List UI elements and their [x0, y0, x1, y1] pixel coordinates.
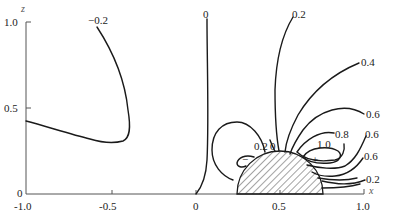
z-tick-0: 0 — [17, 187, 23, 199]
label-0.4: 0.4 — [361, 56, 375, 68]
label-0.6-lower: 0.6 — [364, 150, 378, 162]
plus-sign: + — [312, 153, 318, 165]
contour-chart: 1.0 0.5 0 z -1.0 -0.5 0 0.5 1.0 x — [0, 0, 393, 216]
contour-near-base-1 — [318, 178, 357, 180]
contour-neg-0.2 — [26, 27, 130, 142]
hatched-semicircle-obstacle — [237, 151, 323, 194]
z-tick-1.0: 1.0 — [4, 16, 18, 28]
z-tick-0.5: 0.5 — [4, 102, 18, 114]
label-neg-0.2: −0.2 — [88, 14, 108, 26]
label-0.2-right: 0.2 — [366, 173, 380, 185]
contour-labels: −0.2 0 0.2 0.4 0.6 0.8 0.6 1.0 0.6 0.2 0… — [88, 8, 380, 185]
x-tick--0.5: -0.5 — [99, 200, 117, 212]
x-tick-1.0: 1.0 — [356, 200, 370, 212]
label-0.2-top: 0.2 — [292, 8, 306, 20]
label-0.8: 0.8 — [335, 128, 349, 140]
contour-lines — [26, 17, 366, 194]
contour-near-base-2 — [322, 184, 360, 188]
label-zero-top: 0 — [203, 8, 209, 20]
x-tick-labels: -1.0 -0.5 0 0.5 1.0 — [14, 200, 370, 212]
label-zero-obstacle: 0 — [270, 140, 276, 152]
z-tick-labels: 1.0 0.5 0 — [4, 16, 23, 199]
contour-zero-main — [196, 19, 208, 194]
contour-0.2-right — [322, 180, 365, 184]
x-tick-0: 0 — [193, 200, 199, 212]
label-0.2-left: 0.2 — [254, 140, 268, 152]
x-axis-label: x — [368, 185, 374, 196]
x-tick-0.5: 0.5 — [272, 200, 286, 212]
label-0.6-upper: 0.6 — [366, 108, 380, 120]
label-1.0: 1.0 — [317, 138, 331, 150]
z-axis-label: z — [20, 3, 25, 14]
minus-sign: − — [242, 153, 248, 165]
label-0.6-middle: 0.6 — [365, 128, 379, 140]
x-tick--1.0: -1.0 — [14, 200, 32, 212]
